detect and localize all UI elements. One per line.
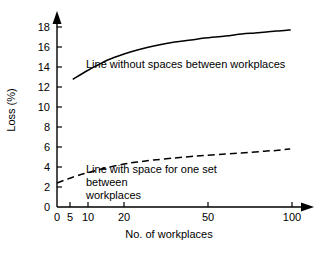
y-tick-label-14: 14 bbox=[28, 62, 50, 73]
chart-figure: 18 16 14 12 10 8 6 4 2 0 0 5 10 20 50 10… bbox=[0, 0, 319, 253]
y-tick-label-4: 4 bbox=[28, 162, 50, 173]
x-axis-title: No. of workplaces bbox=[79, 228, 259, 240]
x-tick-label-50: 50 bbox=[195, 212, 221, 223]
y-tick-label-12: 12 bbox=[28, 82, 50, 93]
y-tick-label-2: 2 bbox=[28, 182, 50, 193]
annotation-dashed-series: Line with space for one set between work… bbox=[86, 163, 246, 202]
annotation-solid-series: Line without spaces between workplaces bbox=[86, 58, 306, 71]
annotation-dashed-line-2: workplaces bbox=[86, 189, 141, 201]
x-axis-ticks bbox=[70, 202, 292, 207]
series-line-solid bbox=[73, 30, 290, 79]
y-axis-title: Loss (%) bbox=[5, 75, 17, 145]
annotation-dashed-line-1: Line with space for one set between bbox=[86, 163, 217, 188]
x-tick-label-100: 100 bbox=[279, 212, 305, 223]
x-axis-arrowhead bbox=[301, 203, 314, 212]
y-tick-label-10: 10 bbox=[28, 102, 50, 113]
y-tick-label-6: 6 bbox=[28, 142, 50, 153]
y-tick-label-16: 16 bbox=[28, 42, 50, 53]
y-axis-ticks bbox=[57, 27, 62, 187]
x-tick-label-10: 10 bbox=[75, 212, 101, 223]
y-tick-label-8: 8 bbox=[28, 122, 50, 133]
x-tick-label-20: 20 bbox=[111, 212, 137, 223]
y-tick-label-18: 18 bbox=[28, 22, 50, 33]
y-axis-arrowhead bbox=[53, 11, 62, 24]
